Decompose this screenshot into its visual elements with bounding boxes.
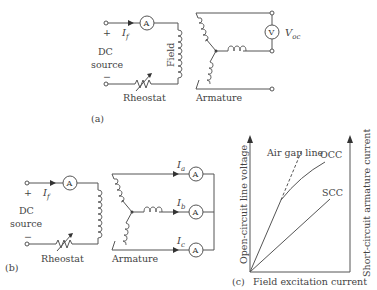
if-label: If — [121, 27, 130, 41]
arrow-up-icon — [347, 135, 353, 143]
occ-label: OCC — [320, 149, 342, 160]
phase-b-ammeter: A Ib — [173, 197, 214, 219]
armature-coil-c-icon — [207, 62, 213, 84]
ic-label: Ic — [176, 235, 185, 249]
armature-label: Armature — [111, 253, 159, 264]
rheostat-icon — [135, 80, 151, 88]
terminal-minus — [104, 82, 108, 86]
field-label: Field — [165, 43, 176, 67]
scc-curve — [250, 199, 330, 272]
svg-text:A: A — [192, 208, 199, 217]
field-coil-icon — [98, 190, 102, 238]
field-coil-icon — [178, 30, 182, 78]
dc-label: DC — [19, 205, 34, 216]
terminal-plus — [25, 181, 29, 185]
armature-label: Armature — [195, 92, 243, 103]
rheostat-label: Rheostat — [41, 253, 84, 264]
armature-coil-a-icon — [198, 18, 208, 41]
armature-coil-b-icon — [228, 46, 246, 51]
svg-text:A: A — [192, 246, 199, 255]
generator-test-diagram: + − DC source If A Field Rheostat — [0, 0, 377, 290]
svg-text:V: V — [268, 28, 275, 37]
armature-coil-a-icon — [114, 179, 124, 202]
phase-c-ammeter: A Ic — [173, 235, 214, 257]
panel-a-tag: (a) — [91, 113, 104, 124]
panel-c-tag: (c) — [232, 276, 245, 287]
terminal-b — [270, 49, 274, 53]
rheostat-label: Rheostat — [123, 92, 166, 103]
panel-a-open-circuit-test: + − DC source If A Field Rheostat — [91, 11, 300, 124]
panel-b-short-circuit-test: + − DC source If A Rheostat Armature — [5, 159, 214, 273]
svg-text:A: A — [143, 19, 150, 28]
svg-text:A: A — [192, 170, 199, 179]
voc-label: Voc — [285, 27, 300, 41]
svg-text:+: + — [24, 187, 32, 198]
terminal-a — [270, 11, 274, 15]
phase-a-ammeter: A Ia — [173, 159, 214, 181]
terminal-minus — [25, 242, 29, 246]
panel-b-tag: (b) — [5, 262, 19, 273]
if-label: If — [42, 187, 51, 201]
panel-c-characteristics-chart: Air gap line OCC SCC Open-circuit line v… — [232, 129, 372, 287]
terminal-c — [270, 87, 274, 91]
minus-sign: − — [103, 71, 111, 82]
occ-curve — [281, 162, 325, 200]
source-label: source — [91, 59, 124, 70]
ib-label: Ib — [176, 197, 186, 211]
svg-text:−: − — [24, 231, 32, 242]
right-axis-label: Short-circuit armature current — [361, 129, 372, 277]
left-axis-label: Open-circuit line voltage — [238, 144, 249, 264]
arrow-up-icon — [247, 135, 253, 143]
source-label: source — [10, 218, 43, 229]
terminal-plus — [104, 21, 108, 25]
air-gap-label: Air gap line — [266, 147, 324, 158]
rheostat-icon — [56, 240, 72, 248]
ia-label: Ia — [176, 159, 185, 173]
svg-text:A: A — [66, 179, 73, 188]
plus-sign: + — [103, 27, 111, 38]
scc-label: SCC — [322, 187, 343, 198]
air-gap-line-lower — [250, 200, 281, 272]
armature-coil-c-icon — [123, 223, 129, 245]
armature-coil-b-icon — [144, 207, 162, 212]
dc-label: DC — [98, 46, 113, 57]
x-axis-label: Field excitation current — [253, 276, 367, 287]
